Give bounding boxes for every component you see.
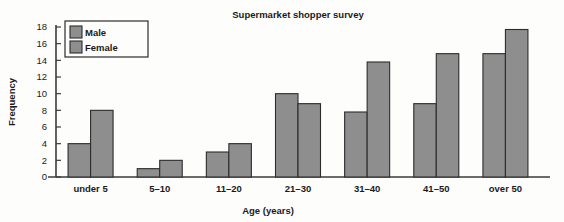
- x-axis-category-labels: under 55–1011–2021–3031–4041–50over 50: [73, 183, 522, 194]
- chart-canvas: Supermarket shopper survey Frequency Age…: [0, 0, 564, 222]
- x-axis-title: Age (years): [242, 205, 294, 216]
- bar-female-5: [436, 54, 459, 177]
- bar-female-6: [505, 30, 528, 178]
- bar-female-4: [367, 62, 390, 177]
- x-category-label: 31–40: [354, 183, 380, 194]
- bar-male-3: [276, 94, 299, 177]
- chart-title: Supermarket shopper survey: [232, 9, 364, 20]
- legend-swatch-male: [70, 26, 82, 38]
- y-axis-ticks: 024681012141618: [36, 21, 61, 182]
- y-tick-label: 18: [36, 21, 47, 32]
- x-category-label: 21–30: [285, 183, 311, 194]
- legend-label-female: Female: [85, 42, 118, 53]
- y-tick-label: 0: [42, 171, 47, 182]
- bar-male-0: [68, 144, 91, 177]
- bar-female-1: [160, 160, 183, 177]
- bar-male-5: [414, 104, 437, 177]
- y-tick-label: 14: [36, 55, 47, 66]
- y-tick-label: 12: [36, 71, 47, 82]
- y-tick-label: 2: [42, 155, 47, 166]
- y-axis-title: Frequency: [6, 77, 17, 126]
- y-tick-label: 16: [36, 38, 47, 49]
- bar-male-6: [483, 54, 506, 177]
- x-category-label: under 5: [73, 183, 108, 194]
- y-tick-label: 6: [42, 121, 47, 132]
- legend-swatch-female: [70, 41, 82, 53]
- legend-label-male: Male: [85, 27, 106, 38]
- y-tick-label: 10: [36, 88, 47, 99]
- y-tick-label: 4: [42, 138, 47, 149]
- x-category-label: 11–20: [216, 183, 242, 194]
- bar-chart: Supermarket shopper survey Frequency Age…: [0, 0, 564, 222]
- y-tick-label: 8: [42, 105, 47, 116]
- x-category-label: 41–50: [423, 183, 449, 194]
- bar-female-0: [91, 110, 114, 177]
- bar-female-3: [298, 104, 321, 177]
- x-category-label: over 50: [489, 183, 522, 194]
- x-category-label: 5–10: [149, 183, 170, 194]
- bar-female-2: [229, 144, 252, 177]
- bar-male-4: [345, 112, 368, 177]
- chart-legend: MaleFemale: [65, 21, 148, 57]
- bar-male-1: [137, 169, 160, 177]
- bar-male-2: [206, 152, 229, 177]
